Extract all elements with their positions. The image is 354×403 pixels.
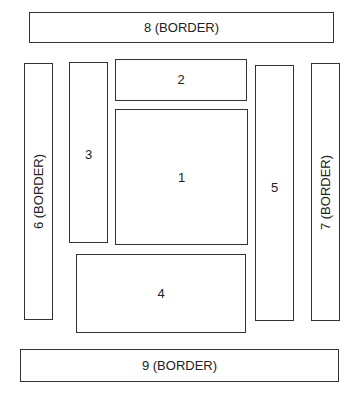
box-9-label: 9 (BORDER) — [142, 358, 217, 373]
box-2: 2 — [115, 59, 247, 101]
box-8-label: 8 (BORDER) — [144, 20, 219, 35]
box-9-border-bottom: 9 (BORDER) — [20, 349, 339, 382]
box-6-border-left: 6 (BORDER) — [24, 63, 53, 320]
box-4-label: 4 — [157, 286, 164, 301]
box-8-border-top: 8 (BORDER) — [29, 12, 334, 43]
box-5-label: 5 — [271, 180, 278, 195]
box-1-label: 1 — [178, 170, 185, 185]
box-1-center: 1 — [115, 109, 248, 245]
box-7-border-right: 7 (BORDER) — [311, 63, 340, 321]
box-6-label: 6 (BORDER) — [31, 154, 46, 229]
box-5: 5 — [255, 65, 294, 321]
box-3: 3 — [69, 62, 108, 243]
box-3-label: 3 — [85, 147, 92, 162]
box-7-label: 7 (BORDER) — [318, 154, 333, 229]
box-2-label: 2 — [177, 72, 184, 87]
box-4: 4 — [76, 254, 246, 333]
